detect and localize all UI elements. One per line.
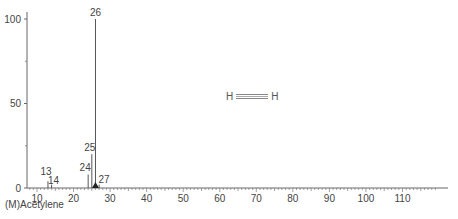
compound-name: (M)Acetylene [5, 199, 64, 210]
structure-diagram: H H [226, 91, 278, 102]
x-tick-label: 50 [178, 193, 190, 204]
axes: 050100102030405060708090100110 [4, 12, 448, 204]
y-tick-label: 100 [4, 14, 21, 25]
x-tick-label: 40 [141, 193, 153, 204]
atom-left: H [226, 91, 233, 102]
x-tick-label: 100 [358, 193, 375, 204]
mass-spectrum-chart: 050100102030405060708090100110 131424252… [0, 0, 458, 219]
peak-label: 25 [84, 142, 96, 153]
x-tick-label: 110 [395, 193, 411, 204]
x-tick-label: 90 [324, 193, 336, 204]
y-tick-label: 50 [10, 98, 22, 109]
x-tick-label: 80 [287, 193, 299, 204]
x-tick-label: 70 [251, 193, 263, 204]
peak-label: 14 [48, 175, 60, 186]
triple-bond-icon [236, 94, 268, 99]
x-tick-label: 30 [105, 193, 117, 204]
peak-label: 24 [80, 162, 92, 173]
peak-label: 27 [99, 174, 111, 185]
x-tick-label: 60 [214, 193, 226, 204]
x-tick-label: 20 [68, 193, 80, 204]
peak-label: 26 [90, 7, 102, 18]
peaks: 131424252627 [40, 7, 110, 188]
atom-right: H [271, 91, 278, 102]
y-tick-label: 0 [15, 183, 21, 194]
